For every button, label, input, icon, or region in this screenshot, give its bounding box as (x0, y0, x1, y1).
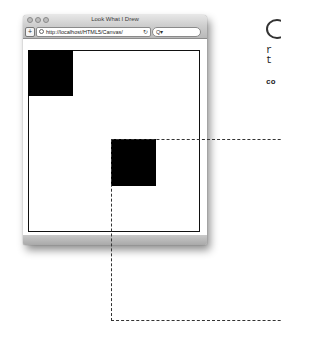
side-text-line3: co (266, 77, 276, 86)
toolbar: + http://localhost/HTML5/Canvas/ ↻ Q▾ (23, 25, 207, 39)
url-text: http://localhost/HTML5/Canvas/ (46, 28, 123, 36)
window-title: Look What I Drew (23, 16, 207, 22)
search-input[interactable]: Q▾ (152, 27, 201, 37)
reload-icon[interactable]: ↻ (143, 28, 148, 36)
add-bookmark-button[interactable]: + (25, 27, 35, 37)
globe-icon (39, 29, 44, 34)
address-bar[interactable]: http://localhost/HTML5/Canvas/ ↻ (36, 27, 151, 37)
search-icon: Q▾ (156, 28, 163, 36)
circle-icon (266, 19, 281, 39)
title-bar: Look What I Drew (23, 15, 207, 25)
dashed-selection-rect (111, 139, 281, 321)
side-text-line2: t (266, 55, 272, 66)
top-left-square (28, 50, 73, 96)
